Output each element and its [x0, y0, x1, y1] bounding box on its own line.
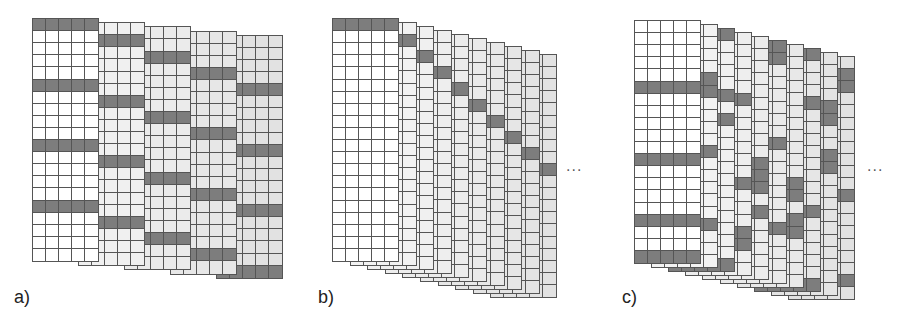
grid-cell — [790, 57, 803, 69]
grid-cell — [256, 169, 269, 181]
grid-cell-highlighted — [151, 233, 164, 245]
grid-cell — [256, 241, 269, 253]
grid-cell — [33, 225, 46, 237]
grid-cell — [346, 104, 359, 116]
grid-cell — [526, 245, 539, 257]
grid-cell — [372, 164, 385, 176]
grid-cell — [403, 132, 416, 144]
grid-cell — [359, 237, 372, 249]
grid-cell — [359, 128, 372, 140]
grid-cell — [841, 226, 854, 238]
grid-cell — [841, 239, 854, 251]
grid-cell — [210, 80, 223, 92]
grid-cell — [164, 88, 177, 100]
grid-cell-highlighted — [687, 82, 700, 94]
grid-cell — [721, 247, 734, 259]
grid-cell — [403, 241, 416, 253]
grid-cell — [118, 132, 131, 144]
grid-cell — [333, 249, 346, 261]
grid-cell — [197, 92, 210, 104]
grid-cell-highlighted — [269, 266, 282, 278]
grid-cell — [455, 253, 468, 265]
grid-cell — [438, 128, 451, 140]
grid-cell — [661, 57, 674, 69]
grid-cell — [635, 69, 648, 81]
grid-cell — [526, 63, 539, 75]
grid-cell — [824, 247, 837, 259]
grid-cell — [197, 225, 210, 237]
grid-cell — [385, 237, 398, 249]
grid-cell — [491, 79, 504, 91]
grid-cell — [385, 116, 398, 128]
grid-cell — [824, 235, 837, 247]
grid-cell — [661, 203, 674, 215]
grid-cell-highlighted — [687, 154, 700, 166]
grid-cell — [738, 263, 751, 275]
grid-cell — [346, 67, 359, 79]
grid-cell — [346, 164, 359, 176]
grid-cell-highlighted — [269, 205, 282, 217]
grid-cell-highlighted — [674, 82, 687, 94]
grid-cell-highlighted — [773, 138, 786, 150]
grid-cell-highlighted — [721, 29, 734, 41]
grid-cell-highlighted — [508, 132, 521, 144]
grid-cell — [385, 213, 398, 225]
grid-cell — [177, 257, 190, 269]
grid-cell — [372, 92, 385, 104]
grid-cell — [824, 271, 837, 283]
grid-cell-highlighted — [543, 164, 556, 176]
grid-cell — [177, 148, 190, 160]
grid-cell — [807, 194, 820, 206]
grid-cell — [491, 67, 504, 79]
grid-cell — [635, 33, 648, 45]
grid-cell — [790, 118, 803, 130]
grid-cell — [177, 245, 190, 257]
grid-cell — [420, 209, 433, 221]
grid-cell — [635, 227, 648, 239]
grid-cell — [635, 106, 648, 118]
grid-cell — [403, 71, 416, 83]
grid-cell — [704, 134, 717, 146]
grid-cell — [674, 203, 687, 215]
grid-cell — [635, 94, 648, 106]
grid-cell-highlighted — [243, 145, 256, 157]
grid-cell-highlighted — [164, 112, 177, 124]
grid-cell — [372, 104, 385, 116]
grid-cell — [359, 176, 372, 188]
grid-cell — [210, 140, 223, 152]
grid-cell — [118, 72, 131, 84]
grid-cell — [85, 176, 98, 188]
grid-cell — [359, 104, 372, 116]
grid-cell — [151, 257, 164, 269]
grid-cell — [256, 48, 269, 60]
grid-cell — [420, 88, 433, 100]
grid-cell — [738, 130, 751, 142]
grid-cell — [243, 60, 256, 72]
grid-cell — [648, 142, 661, 154]
grid-cell — [543, 152, 556, 164]
grid-cell — [473, 39, 486, 51]
grid-cell — [385, 188, 398, 200]
grid-cell — [59, 176, 72, 188]
grid-cell — [210, 92, 223, 104]
grid-cell — [59, 152, 72, 164]
grid-cell-highlighted — [648, 82, 661, 94]
grid-cell — [648, 178, 661, 190]
grid-cell — [256, 36, 269, 48]
grid-cell — [491, 128, 504, 140]
grid-cell — [118, 84, 131, 96]
grid-cell — [85, 128, 98, 140]
grid-cell — [151, 209, 164, 221]
grid-cell — [256, 72, 269, 84]
grid-cell — [755, 146, 768, 158]
grid-cell — [738, 142, 751, 154]
grid-cell — [359, 67, 372, 79]
grid-cell-highlighted — [197, 249, 210, 261]
grid-cell — [491, 152, 504, 164]
grid-cell — [333, 128, 346, 140]
grid-cell — [648, 33, 661, 45]
grid-cell — [197, 44, 210, 56]
grid-cell — [841, 166, 854, 178]
grid-cell — [687, 69, 700, 81]
grid-cell — [151, 197, 164, 209]
